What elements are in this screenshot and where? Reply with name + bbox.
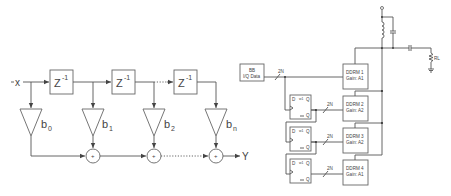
coef-label-b0: b 0 bbox=[41, 118, 52, 132]
svg-text:+: + bbox=[152, 153, 156, 159]
svg-text:RL: RL bbox=[434, 56, 440, 61]
svg-text:-1: -1 bbox=[124, 74, 130, 81]
svg-text:DDRM 3: DDRM 3 bbox=[346, 134, 364, 139]
svg-text:Q: Q bbox=[306, 113, 310, 118]
svg-text:I/Q Data: I/Q Data bbox=[243, 74, 261, 79]
wire-to-ff1 bbox=[285, 77, 290, 110]
gain-triangle-bn bbox=[205, 109, 227, 136]
svg-text:Gain: A2: Gain: A2 bbox=[346, 140, 364, 145]
svg-text:2: 2 bbox=[171, 125, 175, 132]
delay-block-1: Z -1 bbox=[50, 70, 73, 94]
svg-text:b: b bbox=[102, 118, 108, 130]
input-label: x bbox=[15, 77, 20, 88]
svg-text:Gain: A1: Gain: A1 bbox=[346, 76, 364, 81]
gain-triangle-b2 bbox=[143, 109, 165, 136]
b0-to-adder-wire bbox=[31, 136, 85, 156]
svg-text:w1: w1 bbox=[299, 97, 304, 101]
svg-text:b: b bbox=[226, 118, 232, 130]
ddrm3-output-wire bbox=[355, 123, 382, 128]
svg-text:Q: Q bbox=[306, 177, 310, 182]
ddrm4-output-wire bbox=[355, 155, 382, 160]
output-label: Y bbox=[242, 151, 249, 162]
adder-2: + bbox=[147, 149, 161, 163]
svg-text:Q: Q bbox=[306, 161, 310, 166]
svg-text:+: + bbox=[214, 153, 218, 159]
flipflop-1: D w1 Q Q bbox=[290, 95, 311, 119]
ddrm-block-4: DDRM 4 Gain: A1 bbox=[343, 160, 368, 185]
svg-text:Z: Z bbox=[116, 77, 123, 89]
svg-text:BB: BB bbox=[249, 68, 255, 73]
flipflop-2: D w1 Q Q bbox=[290, 127, 311, 151]
svg-text:b: b bbox=[41, 118, 47, 130]
wire-z3-tap bbox=[197, 82, 216, 108]
svg-text:DDRM 2: DDRM 2 bbox=[346, 102, 364, 107]
svg-text:DDRM 1: DDRM 1 bbox=[346, 70, 364, 75]
ddrm-block-2: DDRM 2 Gain: A2 bbox=[343, 96, 368, 121]
svg-text:b: b bbox=[164, 118, 170, 130]
ddrm-block-3: DDRM 3 Gain: A2 bbox=[343, 128, 368, 153]
svg-text:Q: Q bbox=[306, 145, 310, 150]
svg-text:DDRM 4: DDRM 4 bbox=[346, 166, 364, 171]
svg-text:-1: -1 bbox=[62, 74, 68, 81]
svg-text:w1: w1 bbox=[299, 129, 304, 133]
svg-text:n: n bbox=[233, 125, 237, 132]
svg-text:2N: 2N bbox=[327, 102, 333, 107]
coef-label-b1: b 1 bbox=[102, 118, 113, 132]
svg-text:+: + bbox=[91, 153, 95, 159]
fir-filter-diagram: x Z -1 Z -1 Z -1 bbox=[11, 70, 249, 163]
load-resistor-icon bbox=[429, 53, 433, 62]
svg-text:Z: Z bbox=[178, 77, 185, 89]
coef-label-bn: b n bbox=[226, 118, 237, 132]
delay-block-2: Z -1 bbox=[112, 70, 135, 94]
svg-text:0: 0 bbox=[48, 125, 52, 132]
coef-label-b2: b 2 bbox=[164, 118, 175, 132]
svg-text:Q: Q bbox=[306, 97, 310, 102]
flipflop-3: D w1 Q Q bbox=[290, 159, 311, 183]
delay-block-3: Z -1 bbox=[174, 70, 197, 94]
svg-text:1: 1 bbox=[109, 125, 113, 132]
ddrm-block-1: DDRM 1 Gain: A1 bbox=[343, 64, 368, 89]
svg-text:2N: 2N bbox=[327, 134, 333, 139]
ddrm-array-diagram: BB I/Q Data 2N D w1 Q Q D w1 Q Q bbox=[240, 7, 440, 186]
inductor-icon bbox=[382, 22, 384, 38]
svg-text:Z: Z bbox=[54, 77, 61, 89]
bb-iq-data-block: BB I/Q Data bbox=[240, 64, 264, 81]
svg-text:2N: 2N bbox=[327, 166, 333, 171]
ddrm1-output-wire bbox=[355, 48, 382, 64]
adder-1: + bbox=[86, 149, 100, 163]
gain-triangle-b0 bbox=[20, 109, 42, 136]
ddrm2-output-wire bbox=[355, 91, 382, 96]
supply-terminal-icon bbox=[381, 7, 384, 10]
svg-text:2N: 2N bbox=[278, 69, 284, 74]
svg-text:-1: -1 bbox=[186, 74, 192, 81]
svg-text:Gain: A2: Gain: A2 bbox=[346, 108, 364, 113]
diagram-canvas: x Z -1 Z -1 Z -1 bbox=[0, 0, 451, 196]
svg-text:Q: Q bbox=[306, 129, 310, 134]
adder-n: + bbox=[209, 149, 223, 163]
svg-text:Gain: A1: Gain: A1 bbox=[346, 172, 364, 177]
svg-text:w1: w1 bbox=[299, 161, 304, 165]
gain-triangle-b1 bbox=[82, 109, 104, 136]
